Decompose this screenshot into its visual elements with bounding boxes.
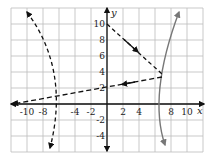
dashed-line-left-arrow (122, 82, 135, 85)
dashed-line-left (13, 77, 162, 104)
x-tick-label: 4 (136, 107, 142, 117)
x-tick-label: 2 (120, 107, 126, 117)
y-tick-label: 8 (99, 35, 105, 45)
chart: y x -10-8-4-224810 108642-2-4 (0, 0, 215, 161)
x-tick-label: -2 (87, 107, 96, 117)
x-tick-label: -10 (20, 107, 35, 117)
x-tick-label: 10 (181, 107, 193, 117)
x-tick-label: -4 (71, 107, 80, 117)
y-tick-label: 10 (94, 19, 106, 29)
x-axis-label: x (197, 105, 203, 116)
y-tick-label: -2 (96, 115, 105, 125)
left-dashed-curve (27, 12, 56, 148)
x-tick-label: 8 (168, 107, 174, 117)
x-tick-label: -8 (39, 107, 48, 117)
dashed-segment-down-arrow (124, 40, 138, 53)
y-tick-label: 6 (99, 51, 105, 61)
y-axis-label: y (110, 7, 117, 18)
gray-parabola-curve (159, 12, 179, 145)
y-tick-labels: 108642-2-4 (94, 19, 106, 141)
y-tick-label: -4 (96, 131, 105, 141)
y-tick-label: 4 (99, 67, 105, 77)
